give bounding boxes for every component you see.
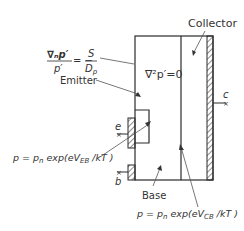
- device-body: [135, 36, 213, 180]
- surface-bc-equation: ∇ₙp′ p′ = − S Dp: [47, 48, 98, 76]
- surface-bc-leader: [100, 58, 134, 64]
- collector-terminal-label: c: [223, 89, 229, 100]
- emitter-arrowhead: [135, 92, 141, 97]
- emitter-region: [135, 110, 149, 143]
- base-terminal-label: b: [115, 176, 121, 187]
- collector-contact-hatch: [207, 36, 213, 180]
- base-contact-hatch: [128, 165, 135, 180]
- svg-text:×: ×: [223, 100, 229, 108]
- base-label: Base: [142, 190, 166, 201]
- collector-bc-equation: p = pn exp(eVCB /kT ): [136, 208, 238, 221]
- emitter-label: Emitter: [60, 75, 98, 86]
- base-terminal: × b: [115, 169, 128, 187]
- transistor-diagram: × e × b × c Collector ∇²p′=0 ∇ₙp′ p′ = −…: [0, 0, 244, 231]
- svg-text:×: ×: [116, 131, 122, 139]
- svg-text:S: S: [88, 48, 95, 59]
- collector-arrowhead: [192, 50, 196, 56]
- emitter-bc-leader: [100, 124, 149, 157]
- emitter-bc-equation: p = pn exp(eVEB /kT ): [12, 152, 114, 165]
- emitter-terminal: × e: [115, 121, 128, 139]
- collector-label: Collector: [188, 17, 237, 30]
- svg-text:∇ₙp′: ∇ₙp′: [47, 49, 69, 60]
- collector-terminal: × c: [213, 89, 229, 108]
- emitter-terminal-label: e: [115, 121, 121, 132]
- collector-bc-leader: [181, 147, 198, 207]
- laplace-equation: ∇²p′=0: [144, 68, 182, 81]
- svg-text:p′: p′: [53, 63, 63, 74]
- collector-leader: [193, 31, 205, 54]
- base-leader: [153, 168, 160, 186]
- emitter-leader: [96, 80, 138, 94]
- emitter-contact-hatch: [128, 118, 135, 148]
